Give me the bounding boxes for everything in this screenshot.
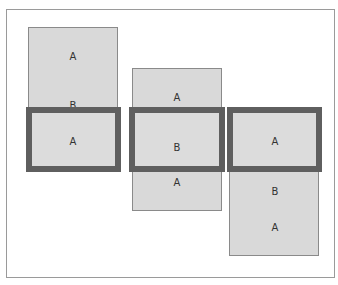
column-3-window-label: A xyxy=(265,137,285,147)
column-2-strip-label-bottom: A xyxy=(167,178,187,188)
column-2-strip-label-top: A xyxy=(167,93,187,103)
column-1-strip-label-top: A xyxy=(63,52,83,62)
column-1-window-label: A xyxy=(63,137,83,147)
column-2-window xyxy=(129,107,225,172)
column-3-strip-label-bottom: A xyxy=(265,223,285,233)
column-3-strip-label-top: B xyxy=(265,187,285,197)
column-2-window-label: B xyxy=(167,143,187,153)
column-1-strip xyxy=(28,27,118,111)
